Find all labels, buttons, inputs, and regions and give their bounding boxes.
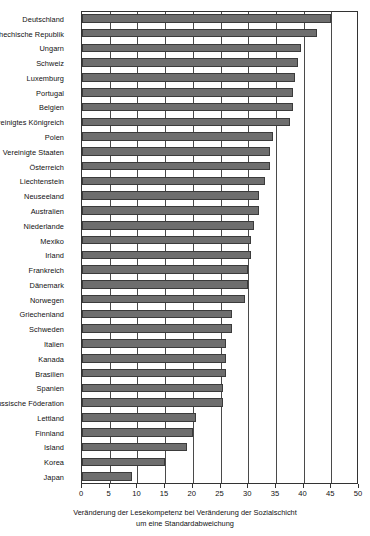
bar: [82, 132, 273, 141]
category-label: Luxemburg: [0, 74, 64, 83]
category-label: Polen: [0, 133, 64, 142]
category-label: Finnland: [0, 429, 64, 438]
x-axis-tick-label: 45: [326, 489, 334, 499]
category-label: Österreich: [0, 163, 64, 172]
bar: [82, 206, 259, 215]
bar-row: Neuseeland: [82, 189, 357, 204]
x-axis-tick: [220, 484, 221, 488]
bar-row: Island: [82, 441, 357, 456]
x-axis-tick: [192, 484, 193, 488]
x-axis-tick-label: 35: [271, 489, 279, 499]
bar-row: Polen: [82, 130, 357, 145]
bar-row: Japan: [82, 470, 357, 485]
category-label: Australien: [0, 207, 64, 216]
x-axis-tick-label: 20: [188, 489, 196, 499]
category-label: Korea: [0, 458, 64, 467]
bar-row: Mexiko: [82, 234, 357, 249]
x-axis-tick: [81, 484, 82, 488]
bar: [82, 58, 298, 67]
bar-row: Frankreich: [82, 263, 357, 278]
category-label: Mexiko: [0, 237, 64, 246]
bar-row: Spanien: [82, 382, 357, 397]
bar-row: Liechtenstein: [82, 175, 357, 190]
category-label: Lettland: [0, 414, 64, 423]
x-axis-title-line-1: Veränderung der Lesekompetenz bei Veränd…: [73, 508, 297, 517]
bar: [82, 162, 270, 171]
category-label: Island: [0, 443, 64, 452]
bar-row: Finnland: [82, 426, 357, 441]
x-axis-tick-label: 25: [215, 489, 223, 499]
category-label: Deutschland: [0, 15, 64, 24]
x-axis-tick: [247, 484, 248, 488]
bar: [82, 384, 223, 393]
x-axis-tick: [109, 484, 110, 488]
x-axis-tick: [303, 484, 304, 488]
bar: [82, 443, 187, 452]
category-label: Niederlande: [0, 222, 64, 231]
bar: [82, 398, 223, 407]
bar-row: Portugal: [82, 86, 357, 101]
bar-row: Vereinigte Staaten: [82, 145, 357, 160]
bar: [82, 413, 196, 422]
bar: [82, 310, 232, 319]
bar-row: Luxemburg: [82, 71, 357, 86]
x-axis-tick-label: 10: [132, 489, 140, 499]
bar-row: Korea: [82, 455, 357, 470]
bar-row: Italien: [82, 337, 357, 352]
x-axis-tick: [358, 484, 359, 488]
bar-row: Schweden: [82, 322, 357, 337]
bar: [82, 118, 290, 127]
category-label: Schweiz: [0, 59, 64, 68]
bar-row: Russische Föderation: [82, 396, 357, 411]
category-label: Schweden: [0, 325, 64, 334]
bar-rows: DeutschlandTschechische RepublikUngarnSc…: [82, 12, 357, 483]
x-axis-tick-label: 30: [243, 489, 251, 499]
category-label: Italien: [0, 340, 64, 349]
bar-row: Niederlande: [82, 219, 357, 234]
bar: [82, 295, 245, 304]
bar: [82, 354, 226, 363]
bar: [82, 458, 165, 467]
category-label: Brasilien: [0, 370, 64, 379]
bar: [82, 29, 317, 38]
category-label: Dänemark: [0, 281, 64, 290]
category-label: Vereinigte Staaten: [0, 148, 64, 157]
bar: [82, 472, 132, 481]
bar: [82, 191, 259, 200]
x-axis-tick-label: 0: [79, 489, 83, 499]
category-label: Norwegen: [0, 296, 64, 305]
bar: [82, 177, 265, 186]
bar: [82, 280, 248, 289]
category-label: Ungarn: [0, 44, 64, 53]
bar-chart: DeutschlandTschechische RepublikUngarnSc…: [0, 0, 370, 536]
category-label: Griechenland: [0, 310, 64, 319]
bar: [82, 88, 293, 97]
bar-row: Australien: [82, 204, 357, 219]
bar-row: Brasilien: [82, 367, 357, 382]
bar: [82, 73, 295, 82]
bar-row: Lettland: [82, 411, 357, 426]
x-axis-tick: [330, 484, 331, 488]
x-axis-tick: [136, 484, 137, 488]
bar: [82, 221, 254, 230]
category-label: Japan: [0, 473, 64, 482]
bar-row: Kanada: [82, 352, 357, 367]
category-label: Portugal: [0, 89, 64, 98]
category-label: Frankreich: [0, 266, 64, 275]
x-axis-tick-label: 40: [298, 489, 306, 499]
bar: [82, 147, 270, 156]
bar: [82, 324, 232, 333]
plot-area: DeutschlandTschechische RepublikUngarnSc…: [81, 11, 358, 484]
bar: [82, 428, 193, 437]
x-axis-tick-labels: 05101520253035404550: [81, 489, 358, 501]
bar-row: Tschechische Republik: [82, 27, 357, 42]
bar-row: Belgien: [82, 101, 357, 116]
bar-row: Vereinigtes Königreich: [82, 115, 357, 130]
bar: [82, 339, 226, 348]
bar: [82, 369, 226, 378]
bar: [82, 251, 251, 260]
bar-row: Schweiz: [82, 56, 357, 71]
category-label: Spanien: [0, 384, 64, 393]
bar-row: Ungarn: [82, 42, 357, 57]
bar: [82, 44, 301, 53]
